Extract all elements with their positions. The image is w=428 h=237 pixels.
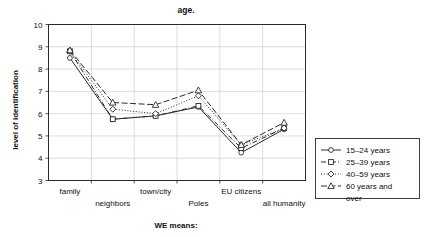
- legend-label: 15–24 years: [346, 146, 390, 155]
- y-axis-title: level of identification: [11, 70, 20, 150]
- data-point-marker: [195, 93, 201, 99]
- data-point-marker: [110, 117, 115, 122]
- y-tick-label: 7: [38, 87, 43, 96]
- x-category-label: EU citizens: [221, 187, 261, 196]
- x-category-label: neighbors: [95, 199, 130, 208]
- legend-label: 25–39 years: [346, 158, 390, 167]
- y-tick-label: 5: [38, 132, 43, 141]
- data-point-marker: [68, 56, 73, 61]
- chart-canvas: 345678910 familyneighborstown/cityPolesE…: [0, 0, 428, 237]
- legend-item[interactable]: over: [346, 194, 362, 203]
- x-category-label: family: [59, 187, 80, 196]
- data-point-marker: [195, 87, 201, 93]
- y-tick-label: 10: [34, 21, 43, 30]
- legend-label: over: [346, 194, 362, 203]
- data-point-marker: [281, 119, 287, 125]
- y-tick-label: 6: [38, 110, 43, 119]
- data-point-marker: [110, 106, 116, 112]
- data-point-marker: [329, 160, 334, 165]
- x-category-labels: familyneighborstown/cityPolesEU citizens…: [59, 187, 305, 208]
- y-tick-label: 9: [38, 43, 43, 52]
- x-category-label: all humanity: [263, 199, 306, 208]
- x-category-label: town/city: [140, 187, 171, 196]
- chart-title: age.: [177, 5, 194, 15]
- x-axis-title: WE means:: [154, 221, 197, 230]
- chart-figure: 345678910 familyneighborstown/cityPolesE…: [0, 0, 428, 237]
- legend: 15–24 years25–39 years40–59 years60 year…: [316, 139, 420, 204]
- legend-label: 40–59 years: [346, 170, 390, 179]
- y-tick-label: 8: [38, 65, 43, 74]
- data-point-marker: [329, 148, 334, 153]
- legend-label: 60 years and: [346, 182, 392, 191]
- x-category-label: Poles: [188, 199, 208, 208]
- y-tick-labels: 345678910: [34, 21, 43, 186]
- y-tick-label: 3: [38, 177, 43, 186]
- data-point-marker: [196, 103, 201, 108]
- gridlines: [49, 25, 306, 181]
- y-tick-label: 4: [38, 154, 43, 163]
